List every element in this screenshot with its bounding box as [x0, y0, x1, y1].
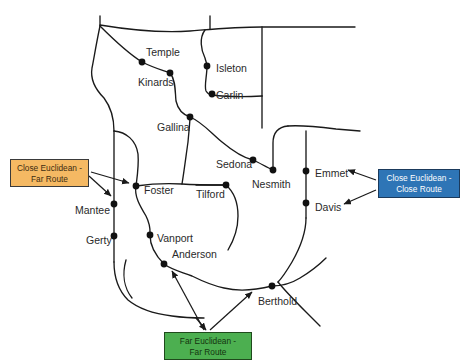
arrow-blue-to-emmet: [348, 170, 376, 180]
road-mid-east: [288, 126, 360, 131]
arrow-green-top-stub: [196, 318, 206, 330]
city-label-sedona: Sedona: [216, 159, 252, 170]
city-label-tilford: Tilford: [196, 189, 225, 200]
road-temple-kinards-gallina: [100, 26, 190, 117]
city-node-berthold[interactable]: [269, 283, 276, 290]
road-foster-vanport-anderson: [136, 186, 164, 264]
arrow-green-to-berthold: [210, 292, 252, 330]
city-node-gallina[interactable]: [187, 114, 194, 121]
city-label-temple: Temple: [146, 47, 180, 58]
city-node-mantee[interactable]: [111, 201, 118, 208]
road-top-trunk: [100, 25, 355, 32]
city-node-davis[interactable]: [303, 200, 310, 207]
road-tilford-south: [226, 185, 238, 250]
callout-far-euclidean-far-route[interactable]: Far Euclidean - Far Route: [164, 332, 252, 360]
road-bottom-left-tail: [124, 260, 132, 298]
road-nesmith-riser: [273, 126, 288, 170]
callout-close-euclidean-close-route[interactable]: Close Euclidean - Close Route: [378, 169, 460, 198]
city-label-kinards: Kinards: [138, 77, 174, 88]
arrow-orange-to-foster: [91, 172, 129, 183]
city-label-isleton: Isleton: [216, 63, 247, 74]
road-left-upper: [92, 26, 114, 131]
city-label-foster: Foster: [144, 185, 174, 196]
city-node-anderson[interactable]: [161, 261, 168, 268]
city-label-mantee: Mantee: [75, 205, 110, 216]
city-label-gallina: Gallina: [157, 122, 190, 133]
city-label-carlin: Carlin: [216, 90, 243, 101]
city-label-gerty: Gerty: [86, 235, 112, 246]
city-label-davis: Davis: [315, 202, 341, 213]
city-label-emmet: Emmet: [315, 168, 348, 179]
road-davis-south: [278, 218, 306, 282]
city-node-carlin[interactable]: [209, 91, 216, 98]
city-label-berthold: Berthold: [258, 296, 297, 307]
city-label-nesmith: Nesmith: [252, 179, 291, 190]
arrow-blue-to-davis: [344, 190, 376, 204]
city-node-vanport[interactable]: [147, 232, 154, 239]
road-gallina-sedona: [190, 117, 253, 160]
city-label-vanport: Vanport: [157, 233, 193, 244]
road-isleton-carlin: [201, 30, 212, 95]
city-node-emmet[interactable]: [303, 168, 310, 175]
city-label-anderson: Anderson: [172, 249, 217, 260]
arrow-orange-to-mantee: [89, 176, 111, 196]
city-node-temple[interactable]: [139, 59, 146, 66]
road-berthold-east: [272, 258, 326, 286]
city-node-isleton[interactable]: [204, 63, 211, 70]
city-node-nesmith[interactable]: [270, 167, 277, 174]
city-node-foster[interactable]: [133, 183, 140, 190]
road-left-branch: [114, 131, 138, 186]
callout-close-euclidean-far-route[interactable]: Close Euclidean - Far Route: [10, 159, 89, 187]
